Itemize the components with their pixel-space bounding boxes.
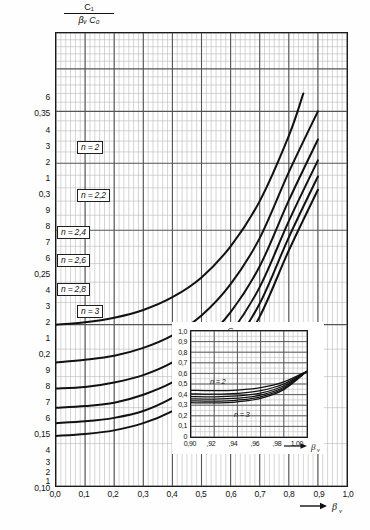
- y-tick-label: 6: [4, 254, 50, 263]
- y-tick-label: 4: [4, 126, 50, 135]
- y-tick-label: 4: [4, 446, 50, 455]
- inset-x-tick-label: ,96: [244, 440, 266, 447]
- x-axis-arrow-icon: β v: [300, 500, 360, 514]
- x-tick-label: 0,2: [98, 489, 128, 499]
- svg-text:β: β: [331, 501, 337, 512]
- y-tick-label: 2: [4, 318, 50, 327]
- x-tick-label: 0,0: [40, 489, 70, 499]
- inset-y-tick-label: 0,8: [171, 349, 187, 356]
- inset-y-tick-label: 0: [176, 433, 187, 440]
- y-tick-label: 7: [4, 238, 50, 247]
- inset-plot-area: [190, 330, 308, 438]
- x-tick-label: 0,7: [245, 489, 275, 499]
- x-tick-label: 0,4: [157, 489, 187, 499]
- y-tick-label: 8: [4, 222, 50, 231]
- inset-y-tick-label: 1,0: [171, 328, 187, 335]
- y-tick-label: 2: [4, 468, 50, 477]
- curve-label-n3: n = 3: [77, 305, 103, 318]
- y-tick-label: 0,15: [4, 430, 50, 439]
- y-tick-label: 3: [4, 458, 50, 467]
- inset-y-tick-label: 0,6: [171, 370, 187, 377]
- y-tick-label: 9: [4, 206, 50, 215]
- y-tick-label: 4: [4, 286, 50, 295]
- curve-label-n24: n = 2,4: [57, 226, 90, 239]
- inset-x-axis-arrow-icon: β v: [284, 440, 332, 452]
- x-tick-label: 0,1: [69, 489, 99, 499]
- inset-x-tick-label: 0,90: [179, 440, 201, 447]
- x-tick-label: 0,6: [216, 489, 246, 499]
- svg-text:β: β: [310, 442, 316, 452]
- curve-label-n28: n = 2,8: [57, 283, 90, 296]
- curve-label-n26: n = 2,6: [57, 254, 90, 267]
- y-tick-label: 3: [4, 302, 50, 311]
- inset-curve-label-n3: n = 3: [234, 410, 249, 419]
- inset-y-tick-label: 0,7: [171, 359, 187, 366]
- y-tick-label: 9: [4, 366, 50, 375]
- y-tick-label: 0,35: [4, 109, 50, 118]
- x-tick-label: 0,8: [274, 489, 304, 499]
- inset-y-tick-label: 0,4: [171, 391, 187, 398]
- x-tick-label: 0,5: [186, 489, 216, 499]
- y-tick-label: 8: [4, 382, 50, 391]
- inset-y-tick-label: 0,2: [171, 412, 187, 419]
- y-tick-label: 0,3: [4, 190, 50, 199]
- y-tick-label: 0,25: [4, 270, 50, 279]
- inset-y-tick-label: 0,9: [171, 338, 187, 345]
- svg-text:v: v: [317, 447, 320, 452]
- y-tick-label: 6: [4, 93, 50, 102]
- inset-chart: C₁ βᵥ C₀ 1,0 0,9 0,8 0,7 0,6 0,5 0,4 0,3…: [172, 322, 324, 454]
- y-axis-title-numerator: C₁: [58, 2, 120, 12]
- curve-label-n2: n = 2: [77, 141, 103, 154]
- inset-x-tick-label: ,92: [200, 440, 222, 447]
- inset-y-tick-label: 0,1: [171, 422, 187, 429]
- y-tick-label: 2: [4, 158, 50, 167]
- y-tick-label: 1: [4, 334, 50, 343]
- y-axis-title-denominator: βᵥ C₀: [58, 15, 120, 25]
- inset-y-tick-label: 0,5: [171, 380, 187, 387]
- inset-y-tick-label: 0,3: [171, 401, 187, 408]
- inset-curve-label-n2: n = 2: [210, 377, 225, 386]
- fraction-bar: [64, 13, 114, 14]
- x-tick-label: 0,9: [304, 489, 334, 499]
- inset-x-tick-label: ,94: [222, 440, 244, 447]
- inset-grid-and-curves: [191, 331, 307, 437]
- y-tick-label: 3: [4, 142, 50, 151]
- y-axis-title: C₁ βᵥ C₀: [58, 2, 120, 25]
- curve-label-n22: n = 2,2: [77, 189, 110, 202]
- figure-canvas: C₁ βᵥ C₀ 6 0,35 4 3 2 1 0,3 9 8 7 6 0,25…: [0, 0, 370, 530]
- x-tick-label: 1,0: [333, 489, 363, 499]
- y-tick-label: 1: [4, 174, 50, 183]
- y-tick-label: 7: [4, 398, 50, 407]
- svg-text:v: v: [339, 507, 343, 515]
- y-tick-label: 0,2: [4, 350, 50, 359]
- y-tick-label: 6: [4, 414, 50, 423]
- x-tick-label: 0,3: [128, 489, 158, 499]
